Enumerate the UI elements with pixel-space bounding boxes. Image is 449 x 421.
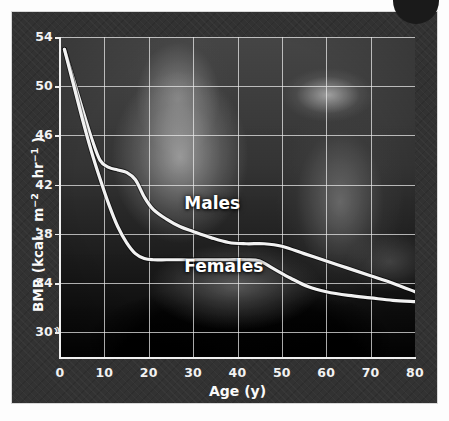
x-tick-label: 20 <box>129 365 169 380</box>
x-tick-label: 50 <box>262 365 302 380</box>
y-axis-line <box>59 37 61 358</box>
y-tick-label: 34 <box>12 275 53 290</box>
y-tick-label: 54 <box>12 29 53 44</box>
y-tick-label: 30 <box>12 324 53 339</box>
x-tick-label: 30 <box>173 365 213 380</box>
y-tick-label: 50 <box>12 78 53 93</box>
x-tick-label: 10 <box>84 365 124 380</box>
y-tick-label: 42 <box>12 177 53 192</box>
y-tick-label: 38 <box>12 226 53 241</box>
x-axis-title: Age (y) <box>60 383 415 399</box>
y-tick-label: 46 <box>12 127 53 142</box>
series-label-males: Males <box>184 193 240 213</box>
x-tick-label: 40 <box>218 365 258 380</box>
x-tick-label: 70 <box>351 365 391 380</box>
figure-root: BMR (kcal · m−2 · hr−1 ) 30343842465054 … <box>0 0 449 421</box>
x-tick-label: 60 <box>306 365 346 380</box>
x-tick-label: 0 <box>40 365 80 380</box>
x-axis-line <box>59 357 416 359</box>
plot-area: MalesFemales <box>60 37 415 357</box>
series-label-females: Females <box>184 256 263 276</box>
x-tick-label: 80 <box>395 365 435 380</box>
chart-panel: BMR (kcal · m−2 · hr−1 ) 30343842465054 … <box>12 12 437 403</box>
